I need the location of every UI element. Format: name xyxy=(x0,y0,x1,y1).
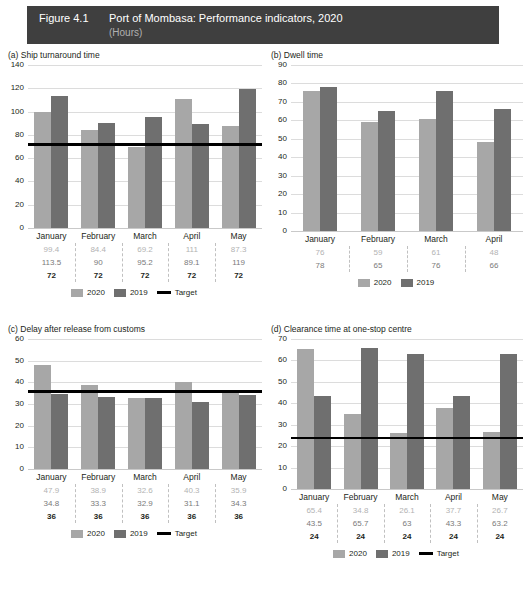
table-cell: 34.3 xyxy=(215,497,262,510)
bar-group xyxy=(477,339,523,489)
table-row-months: JanuaryFebruaryMarchApril xyxy=(291,232,523,246)
legend-item-2019[interactable]: 2019 xyxy=(376,549,410,558)
legend-item-2019[interactable]: 2019 xyxy=(401,278,435,287)
bar-2019 xyxy=(192,402,209,469)
table-cell: March xyxy=(384,490,430,504)
table-cell: 47.9 xyxy=(28,484,75,497)
table-cell: April xyxy=(465,232,523,246)
table-cell: 72 xyxy=(168,269,215,282)
bar-2020 xyxy=(436,408,453,489)
table-cell: 84.4 xyxy=(75,243,122,256)
legend-label: 2019 xyxy=(417,278,435,287)
legend-item-2019[interactable]: 2019 xyxy=(114,288,148,297)
bar-group xyxy=(465,65,523,231)
legend-b: 20202019 xyxy=(269,278,523,287)
legend-c: 20202019Target xyxy=(6,529,262,538)
table-cell: 61 xyxy=(407,246,465,259)
bar-2020 xyxy=(390,433,407,489)
target-line xyxy=(28,143,262,146)
legend-item-target[interactable]: Target xyxy=(419,549,459,558)
bar-group xyxy=(28,339,75,469)
table-cell: 72 xyxy=(122,269,169,282)
legend-label: 2020 xyxy=(87,529,105,538)
legend-label: 2020 xyxy=(87,288,105,297)
y-axis-tick-label: 60 xyxy=(278,356,287,364)
table-cell: 72 xyxy=(75,269,122,282)
plot-inner-a: 020406080100120140 xyxy=(28,65,262,228)
table-cell: 24 xyxy=(430,530,476,543)
bar-2019 xyxy=(378,111,395,231)
y-axis-tick-label: 0 xyxy=(20,465,24,473)
legend-item-2020[interactable]: 2020 xyxy=(71,529,105,538)
legend-item-2020[interactable]: 2020 xyxy=(358,278,392,287)
bar-2019 xyxy=(239,395,256,469)
bar-group xyxy=(122,65,169,228)
column-separator xyxy=(75,484,76,523)
plot-inner-d: 010203040506070 xyxy=(291,339,523,489)
legend-d: 20202019Target xyxy=(269,549,523,558)
table-cell: May xyxy=(477,490,523,504)
bar-group xyxy=(430,339,476,489)
table-cell: 76 xyxy=(291,246,349,259)
bar-2020 xyxy=(128,398,145,469)
bar-2019 xyxy=(436,91,453,231)
panel-title-c: (c) Delay after release from customs xyxy=(8,324,262,335)
figure-title: Port of Mombasa: Performance indicators,… xyxy=(109,11,343,26)
table-cell: March xyxy=(122,229,169,243)
table-cell: 69.2 xyxy=(122,243,169,256)
y-axis-tick-label: 60 xyxy=(15,154,24,162)
table-cell: 89.1 xyxy=(168,256,215,269)
bar-2019 xyxy=(407,354,424,489)
bar-2019 xyxy=(453,396,470,489)
table-cell: 36 xyxy=(28,510,75,523)
table-cell: April xyxy=(168,229,215,243)
plot-area-c: 0102030405060 xyxy=(28,339,262,469)
table-cell: 66 xyxy=(465,259,523,272)
bar-2020 xyxy=(175,99,192,228)
table-cell: 111 xyxy=(168,243,215,256)
y-axis-tick-label: 20 xyxy=(15,201,24,209)
figure-number: Figure 4.1 xyxy=(27,11,109,26)
y-axis-tick-label: 140 xyxy=(11,61,24,69)
y-axis-tick-label: 70 xyxy=(278,98,287,106)
bar-group-container-d xyxy=(291,339,523,489)
legend-label: 2020 xyxy=(374,278,392,287)
bar-group xyxy=(384,339,430,489)
table-cell: 87.3 xyxy=(215,243,262,256)
column-separator xyxy=(215,484,216,523)
legend-label: Target xyxy=(437,549,459,558)
table-cell: 72 xyxy=(28,269,75,282)
legend-item-target[interactable]: Target xyxy=(157,529,197,538)
table-cell: April xyxy=(430,490,476,504)
column-separator xyxy=(168,484,169,523)
table-cell: 113.5 xyxy=(28,256,75,269)
table-cell: 37.7 xyxy=(430,504,476,517)
bar-2019 xyxy=(192,124,209,228)
bar-group xyxy=(168,65,215,228)
table-cell: February xyxy=(349,232,407,246)
table-cell: 36 xyxy=(122,510,169,523)
legend-item-2020[interactable]: 2020 xyxy=(333,549,367,558)
bar-2020 xyxy=(361,122,378,231)
legend-line-icon xyxy=(157,291,171,294)
table-row-months: JanuaryFebruaryMarchAprilMay xyxy=(291,490,523,504)
legend-label: Target xyxy=(175,529,197,538)
y-axis-tick-label: 30 xyxy=(278,421,287,429)
table-cell: 78 xyxy=(291,259,349,272)
legend-item-2019[interactable]: 2019 xyxy=(114,529,148,538)
bar-2019 xyxy=(145,398,162,469)
y-axis-tick-label: 20 xyxy=(278,442,287,450)
legend-item-target[interactable]: Target xyxy=(157,288,197,297)
chart-panel-a: (a) Ship turnaround time0204060801001201… xyxy=(6,50,262,318)
bar-group xyxy=(337,339,383,489)
table-cell: January xyxy=(291,490,337,504)
bar-group xyxy=(291,339,337,489)
legend-label: 2019 xyxy=(130,529,148,538)
legend-line-icon xyxy=(157,532,171,535)
table-cell: 24 xyxy=(477,530,523,543)
column-separator xyxy=(349,246,350,272)
legend-swatch-icon xyxy=(114,289,126,297)
plot-area-d: 010203040506070 xyxy=(291,339,523,489)
legend-label: 2020 xyxy=(349,549,367,558)
legend-item-2020[interactable]: 2020 xyxy=(71,288,105,297)
